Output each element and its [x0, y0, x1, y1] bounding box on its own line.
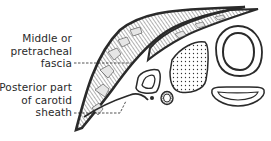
ring-vessel	[161, 92, 173, 105]
esophagus	[212, 87, 264, 106]
outer-fascia-band	[76, 7, 245, 130]
anatomy-diagram	[0, 0, 271, 141]
nerve-dot	[150, 96, 154, 100]
triangular-vessel	[136, 69, 160, 93]
trachea	[216, 26, 262, 76]
thyroid-lobe	[170, 42, 208, 93]
